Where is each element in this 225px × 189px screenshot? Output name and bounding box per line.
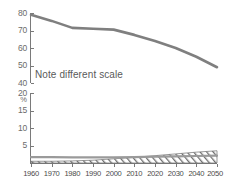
chart-plot-area [0,0,225,189]
upper-declining-line [31,15,217,68]
chart-figure: 80 70 60 50 40 20 % 15 10 5 Note differe… [0,0,225,189]
lower-flat-line [31,156,217,158]
